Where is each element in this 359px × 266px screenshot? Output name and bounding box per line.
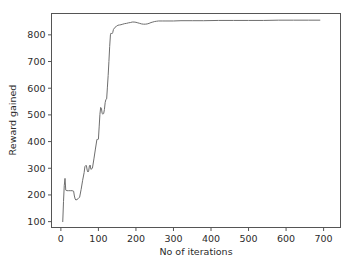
- y-tick-label: 500: [27, 109, 45, 120]
- y-tick-label: 400: [27, 136, 45, 147]
- x-tick-label: 300: [164, 233, 182, 244]
- x-tick-label: 200: [127, 233, 145, 244]
- y-tick-label: 700: [27, 56, 45, 67]
- x-tick-label: 0: [58, 233, 64, 244]
- y-tick-label: 800: [27, 29, 45, 40]
- x-tick-label: 400: [202, 233, 220, 244]
- x-tick-label: 700: [315, 233, 333, 244]
- x-tick-label: 500: [239, 233, 257, 244]
- y-tick-label: 300: [27, 163, 45, 174]
- y-axis-label: Reward gained: [7, 85, 18, 156]
- figure-background: [0, 0, 359, 266]
- y-tick-label: 600: [27, 83, 45, 94]
- x-tick-label: 100: [89, 233, 107, 244]
- y-tick-label: 200: [27, 189, 45, 200]
- x-tick-label: 600: [277, 233, 295, 244]
- line-chart: 0100200300400500600700 10020030040050060…: [0, 0, 359, 266]
- chart-figure: 0100200300400500600700 10020030040050060…: [0, 0, 359, 266]
- y-tick-label: 100: [27, 216, 45, 227]
- x-axis-label: No of iterations: [159, 246, 232, 257]
